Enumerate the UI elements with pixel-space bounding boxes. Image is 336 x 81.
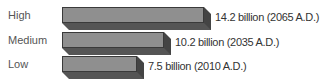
value-label: 7.5 billion (2010 A.D.) bbox=[148, 60, 246, 72]
bar-front-face bbox=[62, 56, 137, 72]
category-label: Low bbox=[8, 58, 58, 70]
bar-front-face bbox=[62, 32, 164, 48]
category-label: High bbox=[8, 9, 58, 21]
category-label: Medium bbox=[8, 34, 58, 46]
value-label: 10.2 billion (2035 A.D.) bbox=[175, 36, 279, 48]
value-label: 14.2 billion (2065 A.D.) bbox=[215, 11, 319, 23]
population-projection-chart: High14.2 billion (2065 A.D.)Medium10.2 b… bbox=[0, 0, 336, 81]
bar-bottom-face bbox=[62, 48, 171, 55]
bar-bottom-face bbox=[62, 72, 144, 79]
bar-front-face bbox=[62, 7, 204, 23]
bar-bottom-face bbox=[62, 23, 211, 30]
